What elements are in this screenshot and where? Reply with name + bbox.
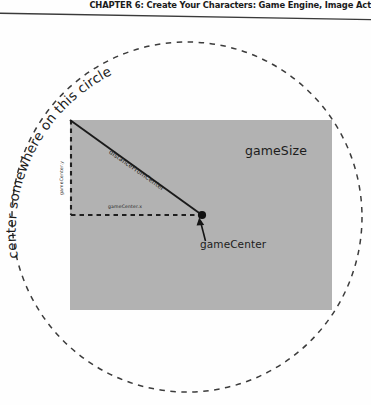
chapter-header-title: CHAPTER 6: Create Your Characters: Game … xyxy=(89,0,371,11)
game-center-x-label: gameCenter.x xyxy=(108,204,142,209)
diagram-figure: center somewhere on this circle gameSize… xyxy=(0,20,371,405)
figure-page: CHAPTER 6: Create Your Characters: Game … xyxy=(0,0,371,405)
diagram-canvas: center somewhere on this circle xyxy=(0,20,371,405)
game-center-label: gameCenter xyxy=(200,238,266,250)
game-size-label: gameSize xyxy=(245,143,307,158)
game-center-y-label: gameCenter.y xyxy=(59,161,64,195)
page-header: CHAPTER 6: Create Your Characters: Game … xyxy=(0,0,371,22)
